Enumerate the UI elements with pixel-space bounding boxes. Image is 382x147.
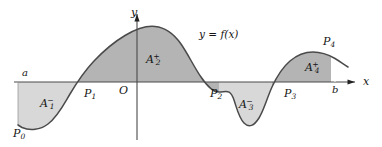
shaded-regions (18, 26, 335, 129)
area-label-A3: A−3 (239, 99, 258, 110)
point-label-P2: P2 (210, 88, 222, 99)
area-label-A4: A+4 (305, 62, 324, 73)
y-axis-label: y (131, 7, 137, 18)
point-P3-subscript: 3 (291, 92, 296, 101)
area-A1-subscript: 1 (50, 102, 55, 111)
right-endpoint-label: b (332, 85, 338, 95)
area-label-A2: A+2 (146, 54, 165, 65)
area-A3-subscript: 3 (249, 103, 254, 112)
area-A4-subscript: 4 (315, 66, 320, 75)
point-P4-subscript: 4 (330, 40, 335, 49)
point-P1-subscript: 1 (91, 92, 96, 101)
function-label: y = f(x) (199, 29, 238, 40)
x-axis-arrowhead (348, 79, 356, 84)
left-endpoint-label: a (22, 68, 28, 78)
figure-canvas (0, 0, 382, 147)
point-P0-subscript: 0 (20, 132, 25, 141)
point-label-P4: P4 (323, 36, 335, 47)
x-axis-label: x (363, 76, 369, 87)
origin-label: O (119, 85, 128, 96)
region-A2 (48, 26, 219, 124)
point-label-P0: P0 (13, 128, 25, 139)
point-P2-subscript: 2 (217, 92, 222, 101)
point-label-P3: P3 (284, 88, 296, 99)
signed-area-figure: x y O a b y = f(x) P0 P1 P2 P3 P4 A−1 A+… (0, 0, 382, 147)
point-label-P1: P1 (84, 88, 96, 99)
area-A2-subscript: 2 (156, 58, 161, 67)
area-label-A1: A−1 (40, 98, 59, 109)
